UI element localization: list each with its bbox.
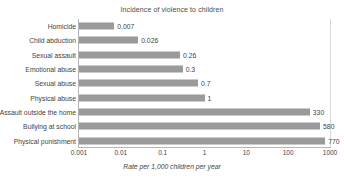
bar-value-label: 330 (310, 109, 324, 116)
category-label: Emotional abuse (25, 66, 76, 73)
bar-rows: Homicide0.007Child abduction0.026Sexual … (0, 19, 344, 148)
bar (79, 80, 198, 87)
bar-value-label: 0.026 (138, 37, 158, 44)
bar (79, 66, 183, 73)
bar-track: 0.007 (79, 19, 330, 33)
bar-value-label: 1 (205, 94, 212, 101)
bar-value-label: 580 (320, 123, 334, 130)
bar-value-label: 0.007 (114, 23, 134, 30)
bar-row: Emotional abuse0.3 (0, 62, 344, 76)
bar-row: Physical abuse1 (0, 91, 344, 105)
bar (79, 137, 325, 144)
bar-track: 0.26 (79, 48, 330, 62)
bar-row: Assault outside the home330 (0, 105, 344, 119)
x-tick-label: 10 (243, 149, 250, 156)
category-label: Sexual assault (32, 51, 76, 58)
bar-track: 770 (79, 134, 330, 148)
bar-track: 580 (79, 119, 330, 133)
x-tick-label: 100 (283, 149, 294, 156)
bar-track: 330 (79, 105, 330, 119)
category-label: Physical punishment (14, 137, 76, 144)
bar-row: Sexual assault0.26 (0, 48, 344, 62)
bar-row: Physical punishment770 (0, 134, 344, 148)
bar (79, 23, 114, 30)
category-label: Child abduction (29, 37, 76, 44)
category-label: Assault outside the home (0, 109, 76, 116)
bar-track: 1 (79, 91, 330, 105)
bar-track: 0.3 (79, 62, 330, 76)
bar-track: 0.7 (79, 76, 330, 90)
bar-row: Homicide0.007 (0, 19, 344, 33)
bar (79, 109, 310, 116)
bar-value-label: 0.3 (183, 66, 195, 73)
bar-value-label: 0.7 (198, 80, 210, 87)
category-label: Sexual abuse (35, 80, 76, 87)
x-tick-label: 1000 (323, 149, 337, 156)
x-tick-label: 0.1 (158, 149, 167, 156)
x-tick-label: 0.001 (71, 149, 87, 156)
bar (79, 94, 205, 101)
category-label: Physical abuse (30, 94, 76, 101)
x-axis-ticks: 0.0010.010.11101001000 (78, 149, 331, 159)
x-axis-label: Rate per 1,000 children per year (0, 163, 344, 170)
bar (79, 123, 320, 130)
category-label: Homicide (48, 23, 76, 30)
bar-row: Child abduction0.026 (0, 33, 344, 47)
chart-title: Incidence of violence to children (0, 6, 344, 13)
category-label: Bullying at school (23, 123, 76, 130)
bar-value-label: 770 (325, 137, 339, 144)
bar (79, 51, 180, 58)
bar-row: Bullying at school580 (0, 119, 344, 133)
x-tick-label: 1 (203, 149, 207, 156)
bar-row: Sexual abuse0.7 (0, 76, 344, 90)
x-tick-label: 0.01 (115, 149, 128, 156)
bar (79, 37, 138, 44)
chart-container: Incidence of violence to children Homici… (0, 0, 344, 179)
bar-track: 0.026 (79, 33, 330, 47)
bar-value-label: 0.26 (180, 51, 196, 58)
